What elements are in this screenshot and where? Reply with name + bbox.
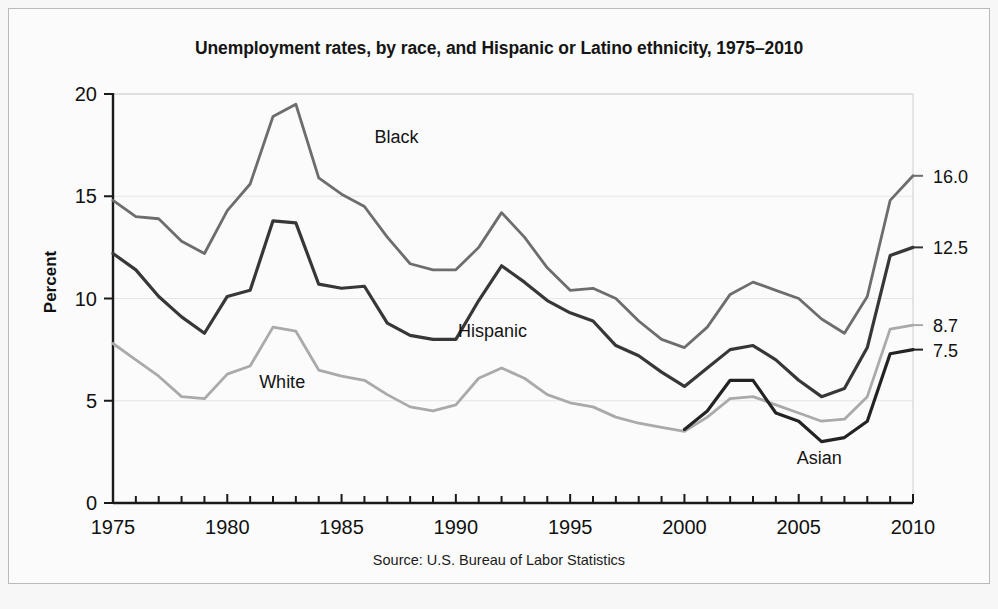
x-tick-label: 2010 — [891, 516, 936, 538]
x-tick-label: 1980 — [205, 516, 250, 538]
x-tick-label: 1975 — [91, 516, 136, 538]
figure-container: Unemployment rates, by race, and Hispani… — [0, 0, 998, 609]
end-value-white: 8.7 — [933, 316, 958, 336]
series-line-black — [113, 104, 913, 347]
y-tick-label: 15 — [75, 185, 97, 207]
series-annotations: BlackHispanicWhiteAsian — [259, 127, 842, 468]
x-tick-label: 1995 — [548, 516, 593, 538]
end-value-hispanic: 12.5 — [933, 238, 968, 258]
series-label-white: White — [259, 372, 305, 392]
x-tick-label: 1985 — [319, 516, 364, 538]
x-tick-label: 2000 — [662, 516, 707, 538]
series-label-asian: Asian — [797, 448, 842, 468]
end-value-black: 16.0 — [933, 167, 968, 187]
line-chart-plot: 05101520 1975198019851990199520002005201… — [0, 0, 998, 609]
series-label-hispanic: Hispanic — [458, 321, 527, 341]
y-tick-label: 5 — [86, 390, 97, 412]
y-axis: 05101520 — [75, 83, 113, 514]
end-value-labels: 16.012.58.77.5 — [913, 167, 968, 361]
y-tick-label: 0 — [86, 492, 97, 514]
x-tick-label: 1990 — [434, 516, 479, 538]
gridlines — [113, 94, 913, 401]
y-tick-label: 20 — [75, 83, 97, 105]
end-value-asian: 7.5 — [933, 341, 958, 361]
series-label-black: Black — [374, 127, 419, 147]
x-tick-label: 2005 — [776, 516, 821, 538]
series-line-hispanic — [113, 221, 913, 397]
y-tick-label: 10 — [75, 288, 97, 310]
data-series-group — [113, 104, 913, 441]
x-axis: 19751980198519901995200020052010 — [91, 494, 936, 538]
